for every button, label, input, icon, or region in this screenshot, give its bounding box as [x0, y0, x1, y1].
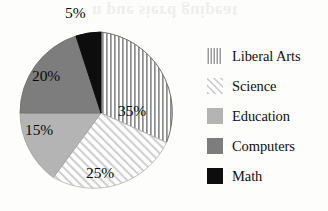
legend-label-education: Education	[232, 108, 290, 125]
pie-chart-plot-area: 35% 25% 15% 20% 5%	[18, 30, 184, 196]
pie-slice-label-education: 15%	[25, 121, 53, 139]
legend-item-math[interactable]: Math	[207, 161, 328, 191]
legend-label-liberal-arts: Liberal Arts	[232, 48, 300, 65]
pie-slice-label-computers: 20%	[32, 67, 60, 85]
pie-slice-label-math: 5%	[65, 4, 85, 22]
light-gray-swatch-icon	[207, 108, 223, 124]
pie-chart-figure: n pue sierd guipeat	[0, 0, 328, 211]
legend-label-science: Science	[232, 78, 276, 95]
dark-gray-swatch-icon	[207, 138, 223, 154]
legend-item-liberal-arts[interactable]: Liberal Arts	[207, 41, 328, 71]
chart-legend: Liberal Arts Science Education	[207, 41, 328, 191]
pie-slice-label-science: 25%	[86, 164, 114, 182]
legend-label-computers: Computers	[232, 138, 295, 155]
legend-item-computers[interactable]: Computers	[207, 131, 328, 161]
diagonal-stripes-swatch-icon	[207, 78, 223, 94]
page-bleedthrough-watermark: n pue sierd guipeat	[92, 1, 324, 21]
pie-slice-label-liberal-arts: 35%	[118, 102, 146, 120]
legend-item-science[interactable]: Science	[207, 71, 328, 101]
black-swatch-icon	[207, 168, 223, 184]
vertical-stripes-swatch-icon	[207, 48, 223, 64]
legend-label-math: Math	[232, 168, 262, 185]
legend-item-education[interactable]: Education	[207, 101, 328, 131]
